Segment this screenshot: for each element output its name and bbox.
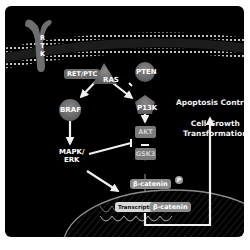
- ras-label: RAS: [103, 76, 119, 84]
- mapk-erk-label: MAPK/ ERK: [59, 148, 85, 164]
- beta-catenin-phospho-node: β-catenin: [130, 179, 171, 189]
- gsk3-node: GSK3: [135, 148, 156, 160]
- phospho-badge: P: [175, 176, 183, 184]
- akt-node: AKT: [135, 126, 156, 138]
- nucleus: [63, 190, 244, 237]
- apoptosis-control-label: Apoptosis Control: [176, 98, 244, 108]
- pten-label: PTEN: [136, 68, 157, 76]
- ret-ptc-node: RET/PTC: [64, 69, 100, 79]
- pathway-diagram: R T K RET/PTC RAS PTEN BRAF P13K AKT GSK…: [5, 6, 244, 237]
- beta-catenin-nuclear-node: β-catenin: [150, 202, 191, 212]
- cell-growth-label: Cell Growth Transformation: [183, 119, 244, 139]
- braf-label: BRAF: [60, 106, 81, 114]
- pi3k-label: P13K: [137, 104, 157, 112]
- rtk-label: R T K: [40, 34, 45, 58]
